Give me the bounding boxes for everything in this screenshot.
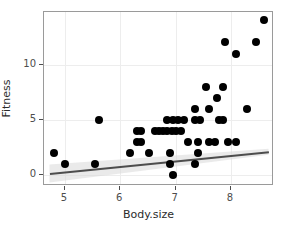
data-point xyxy=(180,116,188,124)
data-point xyxy=(194,149,202,157)
data-point xyxy=(232,50,240,58)
data-point xyxy=(194,138,202,146)
data-point xyxy=(202,83,210,91)
data-point xyxy=(184,138,192,146)
y-tick-mark xyxy=(39,119,43,120)
x-tick-mark xyxy=(175,186,176,190)
y-tick-mark xyxy=(39,64,43,65)
data-point xyxy=(191,105,199,113)
scatter-plot-figure: Fitness Body.size 05105678 xyxy=(0,0,297,239)
x-tick-mark xyxy=(64,186,65,190)
y-tick-label: 10 xyxy=(18,58,36,69)
y-axis-title: Fitness xyxy=(0,69,13,129)
x-tick-label: 7 xyxy=(165,192,185,203)
x-tick-mark xyxy=(119,186,120,190)
x-tick-label: 8 xyxy=(220,192,240,203)
x-tick-label: 6 xyxy=(109,192,129,203)
plot-panel xyxy=(43,11,273,185)
y-tick-mark xyxy=(39,174,43,175)
y-tick-label: 0 xyxy=(18,168,36,179)
x-tick-label: 5 xyxy=(54,192,74,203)
data-point xyxy=(219,83,227,91)
x-tick-mark xyxy=(230,186,231,190)
data-point xyxy=(213,94,221,102)
y-tick-label: 5 xyxy=(18,113,36,124)
confidence-band xyxy=(44,12,274,186)
x-axis-title: Body.size xyxy=(0,208,297,221)
data-point xyxy=(205,105,213,113)
